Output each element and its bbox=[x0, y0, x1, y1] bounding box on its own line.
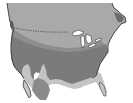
north-america-map bbox=[0, 0, 133, 103]
